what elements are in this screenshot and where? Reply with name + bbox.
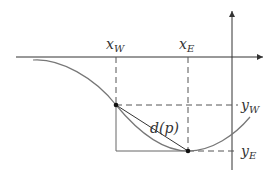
point-e (186, 149, 191, 154)
diagram-canvas: xW xE yW yE d(p) (0, 0, 272, 175)
label-x-w: xW (106, 36, 125, 54)
label-x-e: xE (179, 36, 195, 54)
label-y-w: yW (240, 97, 260, 115)
point-w (114, 103, 119, 108)
label-y-e: yE (240, 143, 257, 161)
label-distance: d(p) (150, 120, 179, 136)
